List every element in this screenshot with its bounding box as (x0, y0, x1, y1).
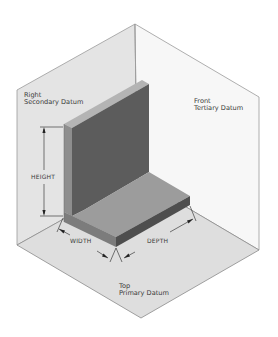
width-dimension-label: WIDTH (70, 237, 92, 244)
height-dimension-label: HEIGHT (31, 173, 55, 180)
top-datum-label: Top Primary Datum (119, 283, 169, 298)
right-datum-role: Secondary Datum (24, 99, 83, 106)
right-datum-label: Right Secondary Datum (24, 92, 83, 107)
front-datum-label: Front Tertiary Datum (194, 98, 243, 113)
front-datum-role: Tertiary Datum (194, 105, 243, 112)
depth-dimension-label: DEPTH (147, 237, 168, 244)
bracket-wall-side-face (64, 124, 72, 216)
top-datum-role: Primary Datum (119, 290, 169, 297)
